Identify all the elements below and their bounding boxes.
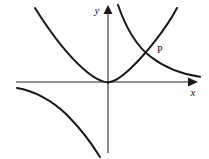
hyperbola-quadrant-1-branch [118,5,200,77]
x-axis-label: x [190,86,196,98]
graph-canvas: y x P [0,0,209,159]
parabola-curve [35,8,177,83]
y-axis-label: y [94,4,100,16]
math-figure: y x P [0,0,209,159]
hyperbola-quadrant-3-branch [17,88,100,157]
y-axis [104,5,113,153]
parabola-right-branch [108,8,177,83]
parabola-left-branch [35,8,108,83]
y-axis-arrowhead [104,5,113,14]
point-p-label: P [157,44,163,55]
